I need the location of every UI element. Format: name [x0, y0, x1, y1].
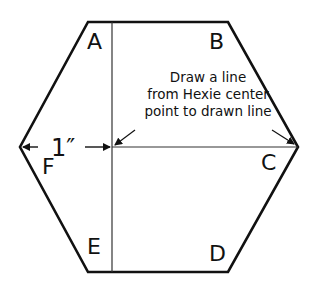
vertex-label-d: D	[209, 243, 226, 265]
instruction-line-1: Draw a line	[118, 69, 298, 86]
vertex-label-a: A	[87, 31, 102, 53]
vertex-label-c: C	[261, 152, 276, 174]
instruction-line-3: point to drawn line	[118, 103, 298, 120]
pointer-arrow-to-drawn-line	[115, 130, 135, 145]
vertex-label-e: E	[87, 236, 101, 258]
hexie-diagram	[0, 0, 320, 289]
measurement-label: 1″	[51, 134, 75, 162]
vertex-label-b: B	[209, 31, 224, 53]
instruction-line-2: from Hexie center	[118, 86, 298, 103]
instruction-note: Draw a line from Hexie center point to d…	[118, 69, 298, 120]
